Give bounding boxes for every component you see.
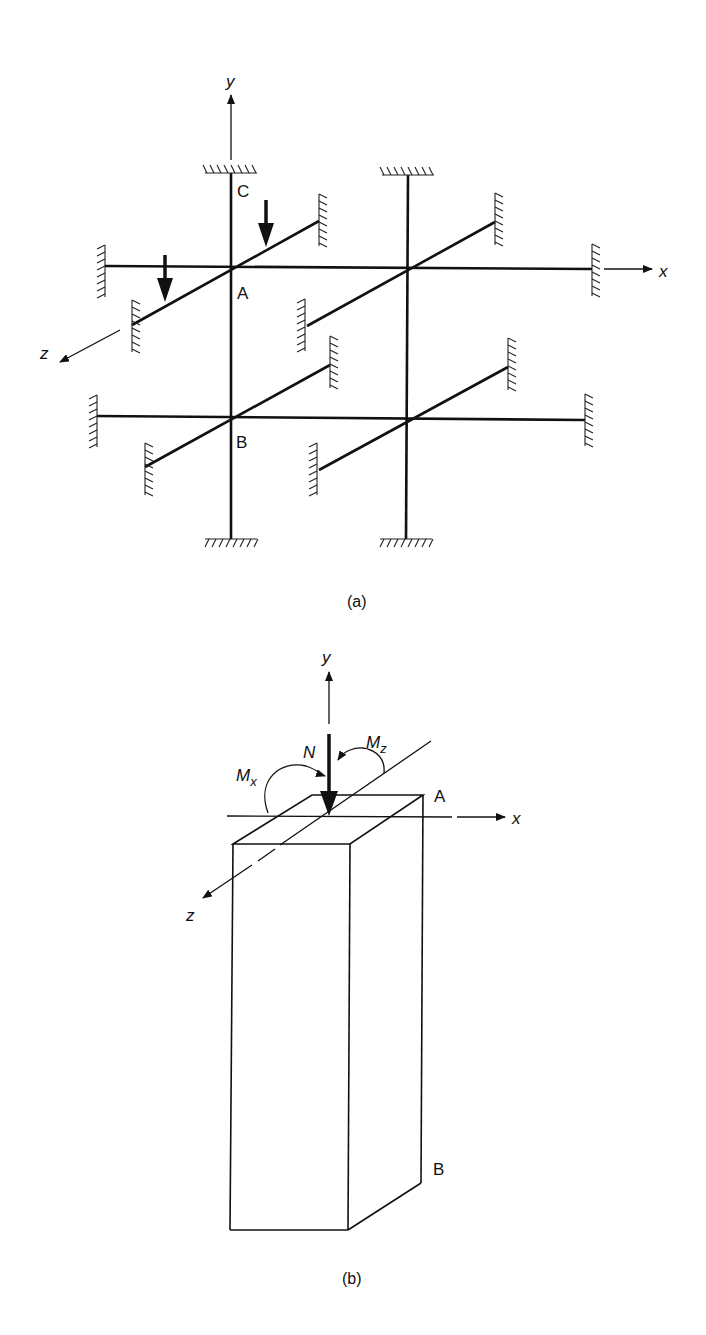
- down-arrow-icon: [320, 791, 338, 816]
- caption-a: (a): [347, 593, 367, 610]
- corner-label-a: A: [434, 787, 446, 806]
- fixed-support-icon: [508, 338, 516, 391]
- down-arrow-icon: [157, 278, 173, 302]
- z-axis-label: z: [185, 906, 195, 925]
- z-axis-arrow: [60, 330, 120, 362]
- upper-x-beam: [105, 266, 592, 269]
- moment-mz-label: Mz: [366, 733, 387, 756]
- y-axis-label: y: [225, 72, 236, 91]
- fixed-support-icon: [495, 193, 503, 246]
- fixed-support-icon: [330, 336, 338, 389]
- fixed-support-icon: [145, 443, 153, 496]
- lower-x-beam: [97, 416, 585, 420]
- axial-force-label: N: [303, 743, 316, 762]
- fixed-support-icon: [132, 300, 140, 353]
- fixed-support-icon: [319, 194, 327, 247]
- point-load-1: [157, 255, 173, 302]
- upper-z-beam-right: [307, 222, 495, 326]
- fixed-support-icon: [380, 539, 433, 547]
- panel-b-column: y x z N Mx Mz A B (b): [185, 648, 521, 1287]
- fixed-support-icon: [380, 167, 434, 175]
- x-axis-label: x: [658, 262, 668, 281]
- fixed-support-icon: [89, 395, 97, 448]
- fixed-support-icon: [585, 394, 593, 447]
- column-edge: [348, 844, 350, 1230]
- panel-a-frame: y x z: [39, 72, 668, 610]
- fixed-support-icon: [205, 539, 258, 547]
- corner-label-b: B: [433, 1160, 444, 1179]
- down-arrow-icon: [258, 223, 274, 247]
- column-right: [406, 175, 408, 539]
- fixed-support-icon: [592, 244, 600, 297]
- fixed-support-icon: [309, 443, 317, 496]
- column-edge: [230, 844, 233, 1230]
- fixed-support-icon: [203, 165, 257, 173]
- z-axis-line: [258, 849, 275, 861]
- fixed-support-icon: [297, 299, 305, 352]
- x-axis-line: [227, 816, 452, 817]
- node-label-a: A: [237, 284, 249, 303]
- structural-figure: y x z: [0, 0, 706, 1335]
- x-axis-label: x: [511, 809, 521, 828]
- column-bottom-edge: [348, 1183, 421, 1230]
- node-label-b: B: [236, 433, 247, 452]
- upper-z-beam-a: [132, 221, 319, 325]
- z-axis-arrow: [203, 865, 252, 898]
- caption-b: (b): [342, 1270, 362, 1287]
- column-edge: [421, 795, 423, 1183]
- y-axis-label: y: [321, 648, 332, 667]
- moment-mx-label: Mx: [236, 766, 257, 789]
- fixed-support-icon: [97, 245, 105, 298]
- node-label-c: C: [237, 182, 249, 201]
- z-axis-label: z: [39, 344, 49, 363]
- point-load-2: [258, 200, 274, 247]
